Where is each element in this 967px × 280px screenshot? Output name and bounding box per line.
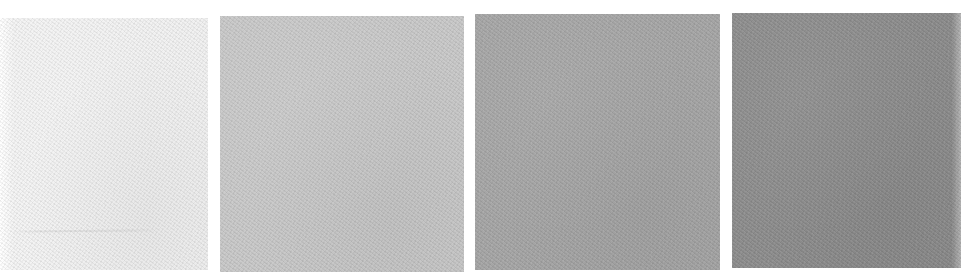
- paper-crease-line: [10, 229, 160, 233]
- paper-swatch-3: [475, 14, 720, 270]
- paper-swatch-2: [220, 16, 464, 272]
- paper-swatch-4: [732, 13, 961, 268]
- paper-swatch-1: [0, 18, 208, 270]
- swatch-canvas: [0, 0, 967, 280]
